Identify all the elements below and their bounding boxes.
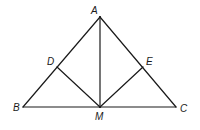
label-m: M — [95, 111, 104, 122]
label-c: C — [180, 103, 188, 114]
label-e: E — [146, 56, 153, 67]
label-a: A — [90, 5, 98, 16]
segment-dm — [57, 67, 100, 107]
segment-em — [100, 67, 143, 107]
segments — [23, 17, 176, 107]
vertex-dot-a — [99, 16, 101, 18]
label-d: D — [47, 56, 54, 67]
vertex-dot-m — [99, 106, 101, 108]
triangle-diagram: A B C M D E — [0, 0, 200, 130]
label-b: B — [13, 102, 20, 113]
segment-ac — [100, 17, 176, 107]
segment-ab — [23, 17, 100, 107]
